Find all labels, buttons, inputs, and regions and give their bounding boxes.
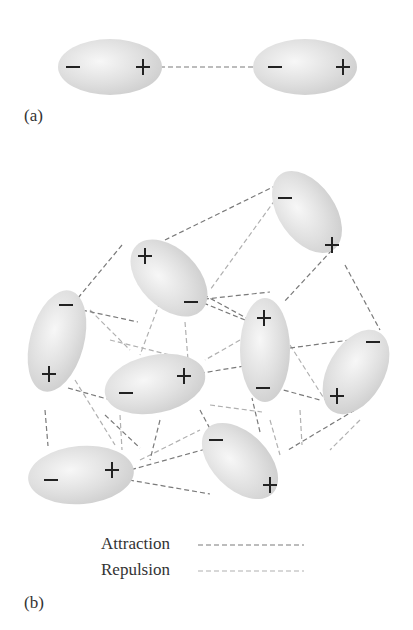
repulsion-line: [330, 420, 360, 450]
legend-attraction-label: Attraction: [101, 534, 170, 554]
repulsion-line: [140, 302, 160, 355]
attraction-line: [204, 295, 250, 320]
dipole-molecule: [258, 158, 357, 265]
attraction-line: [129, 480, 210, 494]
repulsion-line: [110, 340, 170, 355]
attraction-line: [150, 420, 160, 460]
repulsion-line: [300, 410, 302, 445]
attraction-line: [82, 310, 138, 322]
attraction-line: [288, 410, 355, 450]
attraction-line: [252, 398, 260, 432]
panel-b-label: (b): [24, 593, 44, 613]
dipole-molecule: [99, 345, 211, 423]
dipole-molecule: [17, 284, 96, 398]
attraction-line: [284, 250, 332, 302]
dipole-diagram: [0, 0, 413, 630]
legend-repulsion-label: Repulsion: [101, 560, 170, 580]
dipole-molecule: [309, 318, 403, 426]
repulsion-line: [205, 340, 240, 360]
dipole-molecule: [26, 441, 137, 508]
repulsion-line: [140, 430, 200, 460]
repulsion-line: [210, 200, 275, 290]
legend-lines: [198, 545, 304, 571]
dipole-molecule: [188, 409, 293, 514]
attraction-line: [45, 410, 48, 446]
repulsion-line: [185, 322, 188, 360]
dipole-molecule: [116, 225, 222, 331]
attraction-line: [276, 388, 320, 400]
repulsion-line: [290, 345, 325, 400]
repulsion-line: [270, 420, 280, 455]
repulsion-line: [120, 415, 122, 450]
attraction-line: [165, 185, 277, 240]
attraction-line: [78, 245, 122, 298]
attraction-line: [345, 265, 380, 330]
panel-a-label: (a): [24, 106, 43, 126]
attraction-line: [105, 415, 140, 448]
molecules: [17, 39, 403, 513]
